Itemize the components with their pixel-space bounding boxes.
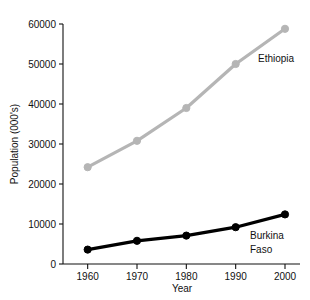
y-tick-label: 30000 <box>28 139 56 150</box>
x-tick-label: 2000 <box>274 271 297 282</box>
x-tick-label: 1960 <box>77 271 100 282</box>
y-tick-label: 40000 <box>28 99 56 110</box>
data-point <box>183 232 190 239</box>
data-point <box>133 137 140 144</box>
data-point <box>84 246 91 253</box>
data-point <box>183 104 190 111</box>
x-axis-title: Year <box>172 283 193 294</box>
series-label-ethiopia: Ethiopia <box>258 53 295 64</box>
chart-canvas: 0100002000030000400005000060000 19601970… <box>0 0 310 300</box>
series-label-burkina-faso-line1: Burkina <box>250 230 284 241</box>
x-tick-label: 1990 <box>225 271 248 282</box>
y-tick-label: 60000 <box>28 19 56 30</box>
y-axis-title: Population (000's) <box>9 104 20 184</box>
data-point <box>232 224 239 231</box>
y-tick-label: 20000 <box>28 179 56 190</box>
series-label-burkina-faso-line2: Faso <box>250 244 273 255</box>
population-line-chart: 0100002000030000400005000060000 19601970… <box>0 0 310 300</box>
data-point <box>84 164 91 171</box>
y-tick-label: 50000 <box>28 59 56 70</box>
x-tick-label: 1970 <box>126 271 149 282</box>
x-tick-label: 1980 <box>175 271 198 282</box>
data-point <box>232 60 239 67</box>
y-tick-label: 0 <box>50 259 56 270</box>
data-point <box>281 211 288 218</box>
data-point <box>281 25 288 32</box>
y-tick-label: 10000 <box>28 219 56 230</box>
data-point <box>133 237 140 244</box>
